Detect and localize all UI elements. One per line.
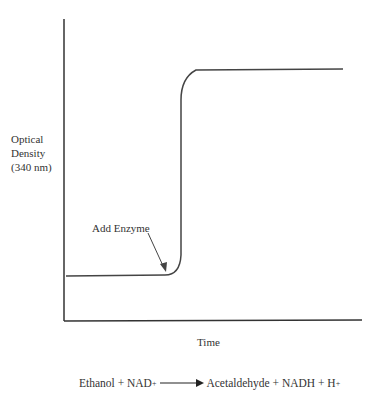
x-axis-label: Time <box>197 336 220 348</box>
y-axis-label-line3: (340 nm) <box>11 160 52 174</box>
x-axis <box>64 320 362 321</box>
reactants: Ethanol + NAD <box>79 377 152 389</box>
annotation-arrowhead <box>160 262 167 272</box>
product-charge: + <box>336 379 341 388</box>
od-curve <box>66 69 343 276</box>
y-axis-label-line1: Optical <box>11 132 52 146</box>
products: Acetaldehyde + NADH + H <box>206 377 335 389</box>
add-enzyme-annotation: Add Enzyme <box>92 222 150 234</box>
reactant-charge: + <box>152 379 157 388</box>
y-axis-label: Optical Density (340 nm) <box>11 132 52 174</box>
annotation-arrow <box>148 233 164 268</box>
y-axis-label-line2: Density <box>11 146 52 160</box>
reaction-equation: Ethanol + NAD+ Acetaldehyde + NADH + H+ <box>79 377 340 389</box>
chart-plot <box>0 0 378 412</box>
reaction-arrow-icon <box>160 378 204 388</box>
